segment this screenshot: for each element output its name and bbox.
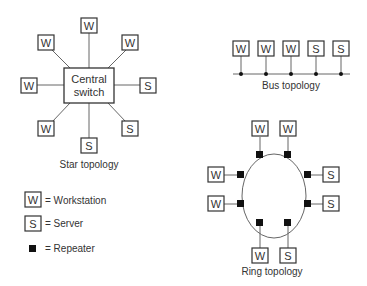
svg-text:W: W	[255, 123, 266, 135]
ring-node-top-left: W	[252, 121, 268, 136]
bus-topology-title: Bus topology	[262, 80, 320, 91]
ring-node-right-lower: S	[323, 196, 339, 211]
star-node-right: S	[140, 78, 156, 93]
bus-node-1: W	[233, 41, 249, 56]
repeater-icon	[29, 245, 36, 252]
svg-text:W: W	[28, 194, 39, 206]
svg-text:= Server: = Server	[45, 218, 84, 229]
bus-node-2: W	[258, 41, 274, 56]
ring-node-left-lower: W	[208, 196, 224, 211]
svg-text:S: S	[327, 169, 334, 181]
svg-text:S: S	[144, 80, 151, 92]
svg-text:W: W	[41, 37, 52, 49]
bus-topology	[233, 56, 350, 76]
ring-node-bottom-left: W	[252, 248, 268, 263]
star-topology-title: Star topology	[60, 159, 119, 170]
legend-workstation: W = Workstation	[25, 192, 106, 207]
legend-repeater: = Repeater	[29, 243, 95, 254]
ring-node-right-upper: S	[323, 167, 339, 182]
repeater-icons	[237, 151, 311, 226]
svg-text:W: W	[24, 80, 35, 92]
star-node-left: W	[21, 78, 37, 93]
network-topologies-diagram: Central switch W W W W S S W S Star topo…	[0, 0, 367, 286]
svg-text:W: W	[84, 20, 95, 32]
svg-text:S: S	[85, 140, 92, 152]
svg-text:S: S	[327, 198, 334, 210]
bus-node-5: S	[333, 41, 349, 56]
ring-node-top-right: W	[280, 121, 296, 136]
svg-text:S: S	[126, 123, 133, 135]
svg-text:W: W	[41, 123, 52, 135]
svg-text:W: W	[261, 43, 272, 55]
star-node-top-left: W	[38, 35, 54, 50]
svg-text:W: W	[211, 198, 222, 210]
central-switch-label-1: Central	[71, 73, 106, 85]
legend: W = Workstation S = Server = Repeater	[25, 192, 106, 254]
svg-text:W: W	[286, 43, 297, 55]
svg-text:S: S	[337, 43, 344, 55]
svg-text:W: W	[211, 169, 222, 181]
legend-server: S = Server	[25, 216, 84, 231]
bus-node-4: S	[308, 41, 324, 56]
svg-text:W: W	[236, 43, 247, 55]
central-switch-label-2: switch	[74, 86, 105, 98]
svg-text:S: S	[312, 43, 319, 55]
svg-text:S: S	[284, 250, 291, 262]
ring-node-bottom-right: S	[280, 248, 296, 263]
ring-topology-title: Ring topology	[241, 266, 302, 277]
ring-topology	[224, 137, 323, 248]
star-node-top: W	[81, 18, 97, 33]
star-node-top-right: W	[122, 35, 138, 50]
svg-text:S: S	[29, 218, 36, 230]
star-node-bottom: S	[81, 138, 97, 153]
star-node-bottom-left: W	[38, 121, 54, 136]
svg-text:= Repeater: = Repeater	[45, 243, 95, 254]
svg-text:W: W	[125, 37, 136, 49]
bus-node-3: W	[283, 41, 299, 56]
svg-text:W: W	[255, 250, 266, 262]
star-node-bottom-right: S	[122, 121, 138, 136]
svg-text:W: W	[283, 123, 294, 135]
svg-text:= Workstation: = Workstation	[45, 195, 106, 206]
ring-node-left-upper: W	[208, 167, 224, 182]
